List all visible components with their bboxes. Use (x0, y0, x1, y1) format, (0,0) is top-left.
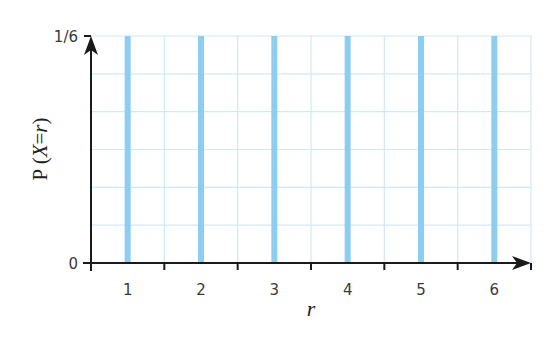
x-tick-label: 1 (123, 281, 133, 299)
x-tick-label: 4 (343, 281, 353, 299)
x-tick-label: 6 (490, 281, 500, 299)
x-tick-label: 3 (270, 281, 280, 299)
ticks (84, 36, 531, 270)
x-tick-label: 2 (196, 281, 206, 299)
x-axis-title: r (307, 296, 316, 321)
x-tick-label: 5 (416, 281, 426, 299)
y-axis-title-part: ) (28, 117, 52, 124)
y-axis-title: P (X=r) (28, 117, 52, 180)
y-tick-label: 0 (68, 255, 78, 273)
bar-r-3 (271, 36, 277, 263)
grid (91, 36, 531, 263)
y-tick-label: 1/6 (54, 28, 78, 46)
bar-r-1 (125, 36, 131, 263)
probability-bar-chart: 01/6123456rP (X=r) (0, 0, 551, 338)
bar-r-4 (345, 36, 351, 263)
axes (83, 36, 531, 271)
labels: 01/6123456rP (X=r) (28, 28, 499, 321)
y-axis-title-part: = (28, 133, 52, 145)
y-axis-title-part: X (28, 143, 52, 158)
y-axis-title-part: P ( (28, 157, 52, 180)
bar-r-5 (418, 36, 424, 263)
bar-r-2 (198, 36, 204, 263)
bar-r-6 (491, 36, 497, 263)
